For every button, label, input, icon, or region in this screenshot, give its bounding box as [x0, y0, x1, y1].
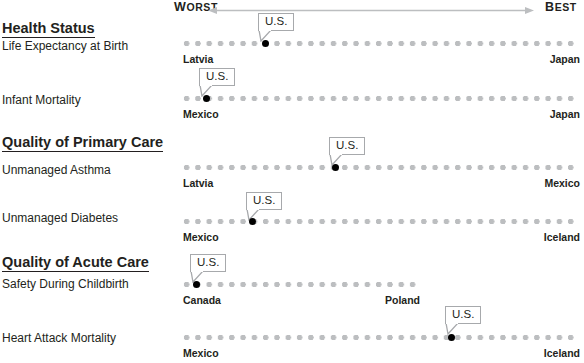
- endpoint-label-worst-safety-during-childbirth: Canada: [183, 294, 221, 306]
- row-title-unmanaged-asthma: Unmanaged Asthma: [2, 163, 111, 177]
- endpoint-label-worst-infant-mortality: Mexico: [183, 108, 219, 120]
- row-title-heart-attack-mortality: Heart Attack Mortality: [2, 331, 116, 345]
- scale-track-life-expectancy: [183, 40, 578, 47]
- us-data-point-heart-attack-mortality: [448, 334, 455, 341]
- dotted-track-icon: [183, 40, 578, 47]
- section-header-health-status: Health Status: [2, 20, 95, 38]
- section-header-quality-acute-care: Quality of Acute Care: [2, 254, 149, 272]
- row-title-life-expectancy-at-birth: Life Expectancy at Birth: [2, 39, 128, 53]
- scale-track-unmanaged-diabetes: [183, 218, 578, 225]
- endpoint-label-best-life-expectancy: Japan: [550, 53, 580, 65]
- us-data-point-life-expectancy: [262, 40, 269, 47]
- scale-track-unmanaged-asthma: [183, 164, 578, 171]
- row-title-infant-mortality: Infant Mortality: [2, 93, 81, 107]
- double-headed-arrow-icon: [208, 6, 534, 15]
- us-callout-unmanaged-diabetes: U.S.: [246, 192, 282, 210]
- us-data-point-infant-mortality: [203, 95, 210, 102]
- endpoint-label-best-unmanaged-asthma: Mexico: [544, 177, 580, 189]
- dotted-track-icon: [183, 95, 578, 102]
- endpoint-label-best-safety-during-childbirth: Poland: [385, 294, 420, 306]
- scale-track-safety-during-childbirth: [183, 281, 420, 288]
- row-title-unmanaged-diabetes: Unmanaged Diabetes: [2, 211, 118, 225]
- dotted-track-icon: [183, 164, 578, 171]
- endpoint-label-worst-life-expectancy: Latvia: [183, 53, 213, 65]
- endpoint-label-best-infant-mortality: Japan: [550, 108, 580, 120]
- health-care-ranking-chart: WORST BEST Health Status Quality of Prim…: [0, 0, 584, 363]
- row-title-safety-during-childbirth: Safety During Childbirth: [2, 277, 129, 291]
- axis-best-text: EST: [555, 1, 577, 13]
- dotted-track-icon: [183, 334, 578, 341]
- us-callout-heart-attack-mortality: U.S.: [445, 306, 481, 324]
- endpoint-label-worst-heart-attack-mortality: Mexico: [183, 347, 219, 359]
- us-callout-unmanaged-asthma: U.S.: [329, 137, 365, 155]
- section-header-quality-primary-care: Quality of Primary Care: [2, 134, 163, 152]
- us-callout-infant-mortality: U.S.: [199, 68, 235, 86]
- scale-track-infant-mortality: [183, 95, 578, 102]
- endpoint-label-worst-unmanaged-asthma: Latvia: [183, 177, 213, 189]
- us-callout-life-expectancy: U.S.: [258, 13, 294, 31]
- us-data-point-unmanaged-asthma: [332, 164, 339, 171]
- us-data-point-safety-during-childbirth: [193, 281, 200, 288]
- scale-track-heart-attack-mortality: [183, 334, 578, 341]
- dotted-track-icon: [183, 281, 420, 288]
- us-data-point-unmanaged-diabetes: [249, 218, 256, 225]
- us-callout-safety-during-childbirth: U.S.: [190, 254, 226, 272]
- endpoint-label-worst-unmanaged-diabetes: Mexico: [183, 231, 219, 243]
- endpoint-label-best-unmanaged-diabetes: Iceland: [544, 231, 580, 243]
- dotted-track-icon: [183, 218, 578, 225]
- endpoint-label-best-heart-attack-mortality: Iceland: [544, 347, 580, 359]
- axis-label-best: BEST: [545, 0, 577, 14]
